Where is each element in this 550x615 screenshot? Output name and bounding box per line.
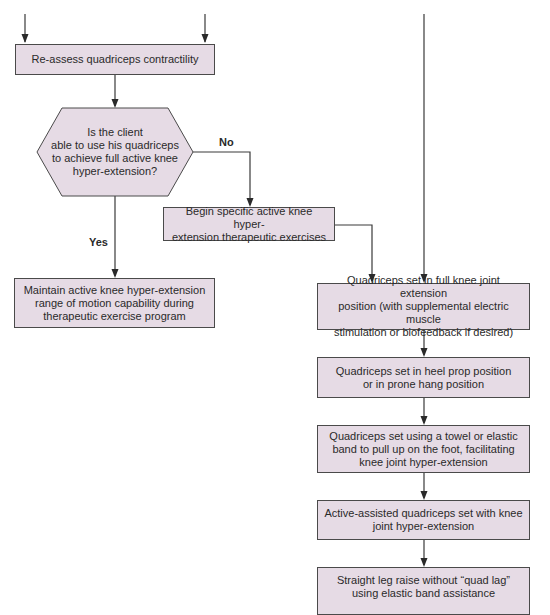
arrowhead (112, 269, 119, 278)
straight-leg-raise-box: Straight leg raise without “quad lag” us… (317, 567, 530, 615)
no-label: No (219, 136, 234, 148)
reassess-text: Re-assess quadriceps contractility (32, 53, 199, 66)
arrow-decision-begin (193, 152, 250, 205)
arrow-begin-qsfull (335, 225, 372, 281)
arrowhead (112, 99, 119, 108)
arrowhead (421, 348, 428, 357)
begin-exercises-box: Begin specific active knee hyper- extens… (163, 207, 335, 241)
qs-heel-prop-box: Quadriceps set in heel prop position or … (317, 357, 530, 398)
qs-full-extension-box: Quadriceps set in full knee joint extens… (317, 283, 530, 330)
qs-towel-box: Quadriceps set using a towel or elastic … (317, 425, 530, 473)
active-assisted-qs-box: Active-assisted quadriceps set with knee… (317, 500, 530, 540)
arrowhead (421, 416, 428, 425)
yes-label: Yes (89, 236, 108, 248)
maintain-rom-box: Maintain active knee hyper-extension ran… (14, 278, 215, 328)
arrowhead (421, 491, 428, 500)
decision-text: Is the client able to use his quadriceps… (47, 126, 183, 178)
arrowhead (202, 34, 209, 43)
reassess-box: Re-assess quadriceps contractility (15, 44, 215, 75)
arrowhead (421, 558, 428, 567)
arrowhead (22, 34, 29, 43)
